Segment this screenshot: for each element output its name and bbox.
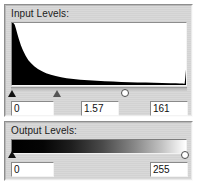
triangle-down-icon	[53, 90, 61, 97]
output-white-point-field[interactable]: 255	[150, 162, 188, 177]
input-white-point-handle[interactable]	[121, 89, 129, 97]
circle-outline-icon	[181, 151, 189, 159]
triangle-down-icon	[8, 90, 16, 97]
input-gamma-field[interactable]: 1.57	[81, 101, 119, 116]
circle-outline-icon	[121, 89, 129, 97]
input-black-point-field[interactable]: 0	[11, 101, 54, 116]
output-levels-label: Output Levels:	[11, 125, 77, 136]
triangle-down-icon	[8, 151, 16, 158]
input-levels-slider-track[interactable]	[11, 87, 187, 91]
histogram-chart	[12, 23, 186, 85]
histogram-frame	[11, 22, 187, 86]
output-levels-gradient-bar[interactable]	[11, 139, 187, 154]
output-black-point-field[interactable]: 0	[11, 162, 54, 177]
output-black-point-handle[interactable]	[8, 151, 17, 158]
output-white-point-handle[interactable]	[181, 151, 189, 159]
input-white-point-field[interactable]: 161	[150, 101, 188, 116]
input-black-point-handle[interactable]	[8, 90, 17, 97]
input-levels-label: Input Levels:	[11, 8, 69, 19]
input-midtone-handle[interactable]	[53, 90, 62, 97]
levels-dialog: Input Levels: 0 1.57 161 Output Levels: …	[0, 0, 197, 185]
